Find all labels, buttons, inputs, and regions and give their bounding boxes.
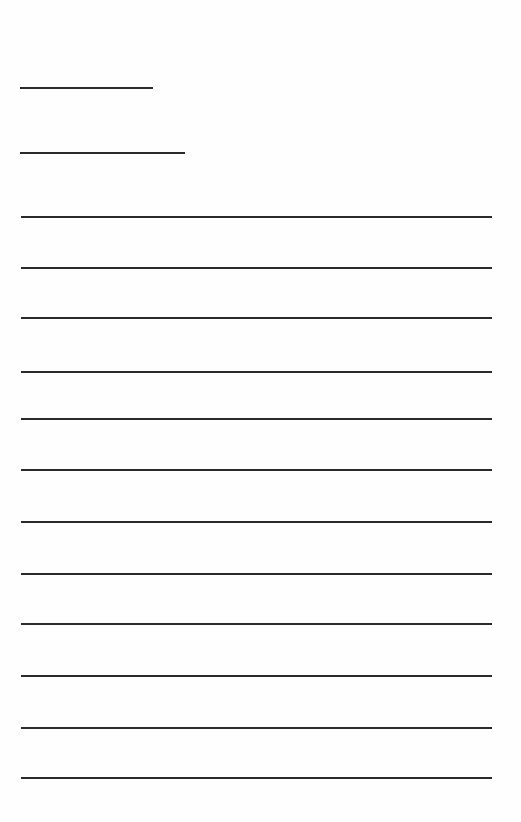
writing-line[interactable] <box>21 727 492 729</box>
header-field-line-1[interactable] <box>20 87 153 89</box>
writing-line[interactable] <box>21 216 492 218</box>
writing-line[interactable] <box>21 573 492 575</box>
writing-line[interactable] <box>21 469 492 471</box>
writing-line[interactable] <box>21 623 492 625</box>
writing-line[interactable] <box>21 371 492 373</box>
header-field-line-2[interactable] <box>20 152 185 154</box>
writing-line[interactable] <box>21 521 492 523</box>
writing-line[interactable] <box>21 317 492 319</box>
lined-page <box>0 0 521 822</box>
writing-line[interactable] <box>21 418 492 420</box>
writing-line[interactable] <box>21 777 492 779</box>
writing-line[interactable] <box>21 267 492 269</box>
writing-line[interactable] <box>21 675 492 677</box>
